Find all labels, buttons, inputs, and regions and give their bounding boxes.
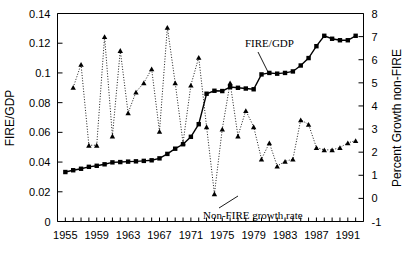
data-point-triangle bbox=[86, 143, 91, 148]
y-axis-ticks bbox=[58, 14, 63, 222]
data-point-triangle bbox=[337, 145, 342, 150]
data-point-triangle bbox=[165, 25, 170, 30]
y2-tick-label: 2 bbox=[372, 146, 378, 158]
data-point-square bbox=[63, 170, 67, 174]
data-point-square bbox=[134, 159, 138, 163]
data-point-triangle bbox=[322, 147, 327, 152]
x-tick-label: 1955 bbox=[53, 229, 77, 241]
data-point-square bbox=[275, 71, 279, 75]
y2-axis-tick-labels: -1012345678 bbox=[372, 8, 382, 228]
data-point-square bbox=[126, 159, 130, 163]
data-point-square bbox=[165, 152, 169, 156]
series-line bbox=[65, 36, 355, 172]
data-point-square bbox=[228, 85, 232, 89]
x-tick-label: 1971 bbox=[179, 229, 203, 241]
x-tick-label: 1987 bbox=[304, 229, 328, 241]
data-point-square bbox=[338, 38, 342, 42]
x-tick-label: 1983 bbox=[273, 229, 297, 241]
data-point-square bbox=[95, 164, 99, 168]
data-point-triangle bbox=[172, 80, 177, 85]
data-point-square bbox=[157, 156, 161, 160]
data-point-triangle bbox=[102, 34, 107, 39]
y2-axis-title: Percent Growth non-FIRE bbox=[390, 49, 404, 187]
data-point-square bbox=[306, 56, 310, 60]
y2-tick-label: 5 bbox=[372, 77, 378, 89]
chart-svg: 1955195919631967197119751979198319871991… bbox=[0, 0, 413, 277]
y-tick-label: 0.04 bbox=[29, 156, 50, 168]
data-point-square bbox=[87, 165, 91, 169]
data-point-triangle bbox=[345, 141, 350, 146]
data-point-triangle bbox=[227, 80, 232, 85]
data-point-triangle bbox=[306, 122, 311, 127]
x-tick-label: 1991 bbox=[336, 229, 360, 241]
data-point-triangle bbox=[70, 85, 75, 90]
y2-tick-label: 3 bbox=[372, 123, 378, 135]
data-point-triangle bbox=[212, 191, 217, 196]
data-point-triangle bbox=[267, 141, 272, 146]
data-point-triangle bbox=[118, 48, 123, 53]
data-point-square bbox=[79, 167, 83, 171]
data-point-triangle bbox=[157, 129, 162, 134]
data-point-square bbox=[251, 87, 255, 91]
x-tick-label: 1979 bbox=[241, 229, 265, 241]
y-tick-label: 0.12 bbox=[29, 37, 50, 49]
x-tick-label: 1967 bbox=[147, 229, 171, 241]
y2-tick-label: 6 bbox=[372, 54, 378, 66]
data-point-square bbox=[204, 92, 208, 96]
data-point-triangle bbox=[125, 110, 130, 115]
data-point-triangle bbox=[220, 127, 225, 132]
x-tick-label: 1959 bbox=[84, 229, 108, 241]
data-point-square bbox=[71, 168, 75, 172]
data-point-square bbox=[118, 160, 122, 164]
data-point-square bbox=[322, 34, 326, 38]
series-non-fire-growth-rate bbox=[70, 25, 358, 196]
data-point-triangle bbox=[274, 164, 279, 169]
y-tick-label: 0.02 bbox=[29, 186, 50, 198]
leader-line-non-fire bbox=[219, 196, 238, 208]
data-point-triangle bbox=[259, 157, 264, 162]
data-point-triangle bbox=[110, 134, 115, 139]
data-point-square bbox=[189, 135, 193, 139]
data-point-square bbox=[236, 86, 240, 90]
y2-axis-ticks bbox=[359, 14, 364, 222]
data-point-triangle bbox=[78, 62, 83, 67]
y-tick-label: 0.14 bbox=[29, 8, 50, 20]
data-point-triangle bbox=[204, 124, 209, 129]
data-point-triangle bbox=[188, 83, 193, 88]
data-point-square bbox=[346, 38, 350, 42]
annotation-fire-gdp: FIRE/GDP bbox=[245, 37, 294, 72]
x-axis-tick-labels: 1955195919631967197119751979198319871991 bbox=[53, 229, 360, 241]
data-point-triangle bbox=[251, 124, 256, 129]
data-point-square bbox=[299, 63, 303, 67]
y2-tick-label: 1 bbox=[372, 169, 378, 181]
data-point-triangle bbox=[235, 134, 240, 139]
y-tick-label: 0.06 bbox=[29, 126, 50, 138]
data-point-triangle bbox=[149, 67, 154, 72]
data-point-triangle bbox=[282, 159, 287, 164]
data-point-triangle bbox=[243, 108, 248, 113]
data-point-square bbox=[220, 89, 224, 93]
series-line bbox=[73, 27, 355, 193]
data-point-square bbox=[353, 34, 357, 38]
series-fire-gdp bbox=[63, 34, 358, 175]
y-tick-label: 0.1 bbox=[35, 67, 50, 79]
data-point-square bbox=[259, 72, 263, 76]
y2-tick-label: 4 bbox=[372, 100, 378, 112]
data-point-square bbox=[244, 86, 248, 90]
data-point-triangle bbox=[133, 90, 138, 95]
data-point-square bbox=[291, 69, 295, 73]
data-point-triangle bbox=[290, 157, 295, 162]
y2-tick-label: -1 bbox=[372, 216, 382, 228]
x-tick-label: 1975 bbox=[210, 229, 234, 241]
leader-line-fire-gdp bbox=[258, 52, 268, 72]
annotation-non-fire: Non-FIRE growth rate bbox=[203, 196, 303, 221]
y2-tick-label: 8 bbox=[372, 8, 378, 20]
data-point-triangle bbox=[353, 138, 358, 143]
x-tick-label: 1963 bbox=[116, 229, 140, 241]
data-point-square bbox=[283, 71, 287, 75]
annotation-label-fire-gdp: FIRE/GDP bbox=[245, 37, 294, 49]
data-point-triangle bbox=[298, 117, 303, 122]
data-point-triangle bbox=[141, 80, 146, 85]
data-point-triangle bbox=[196, 55, 201, 60]
chart-container: 1955195919631967197119751979198319871991… bbox=[0, 0, 413, 277]
